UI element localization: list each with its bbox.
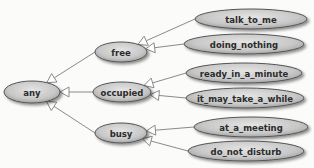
node-label: occupied: [101, 88, 144, 98]
node-do-not-disturb[interactable]: do_not_disturb: [188, 141, 304, 161]
node-busy[interactable]: busy: [95, 123, 147, 143]
node-label: talk_to_me: [225, 15, 277, 25]
edge-free-to-any: [47, 52, 95, 83]
diagram-canvas: anyfreeoccupiedbusytalk_to_medoing_nothi…: [0, 0, 314, 168]
nodes-layer: anyfreeoccupiedbusytalk_to_medoing_nothi…: [4, 9, 308, 161]
node-doing-nothing[interactable]: doing_nothing: [184, 34, 304, 54]
edge-occupied-to-any: [60, 87, 93, 97]
node-free[interactable]: free: [95, 42, 147, 62]
node-talk-to-me[interactable]: talk_to_me: [195, 9, 307, 29]
node-label: free: [111, 48, 131, 58]
node-occupied[interactable]: occupied: [93, 82, 151, 102]
node-label: do_not_disturb: [211, 147, 282, 157]
generalization-arrowhead-icon: [46, 101, 56, 110]
generalization-arrowhead-icon: [138, 36, 148, 45]
edge-ready_in_a_minute-to-occupied: [144, 73, 186, 88]
generalization-arrowhead-icon: [60, 87, 69, 97]
edge-doing_nothing-to-free: [146, 43, 184, 53]
node-label: it_may_take_a_while: [197, 94, 293, 104]
node-label: ready_in_a_minute: [200, 69, 289, 79]
node-it-may-take-a-while[interactable]: it_may_take_a_while: [186, 88, 304, 108]
edge-do_not_disturb-to-busy: [142, 136, 188, 151]
node-any[interactable]: any: [4, 81, 60, 103]
generalization-arrowhead-icon: [146, 125, 155, 135]
node-label: doing_nothing: [210, 40, 278, 50]
node-at-a-meeting[interactable]: at_a_meeting: [194, 117, 308, 137]
edge-busy-to-any: [46, 101, 95, 133]
edge-it_may_take_a_while-to-occupied: [150, 90, 186, 100]
edge-at_a_meeting-to-busy: [146, 125, 194, 135]
generalization-arrowhead-icon: [47, 74, 57, 83]
node-ready-in-a-minute[interactable]: ready_in_a_minute: [186, 63, 302, 83]
node-label: at_a_meeting: [219, 123, 283, 133]
node-label: any: [23, 88, 41, 98]
node-label: busy: [110, 129, 133, 139]
hierarchy-diagram: anyfreeoccupiedbusytalk_to_medoing_nothi…: [0, 0, 314, 168]
